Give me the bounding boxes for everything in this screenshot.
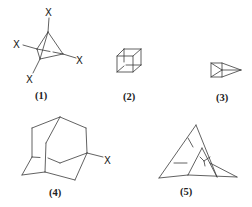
structure-4-adamantane: X (4)	[22, 117, 111, 199]
structure-label-5: (5)	[180, 186, 193, 198]
substituent-x-bottom: X	[26, 74, 33, 85]
structure-2-cubane: (2)	[117, 49, 141, 103]
structures-figure: X X X X (1) (2) (3)	[0, 0, 252, 207]
substituent-x-right: X	[76, 55, 83, 66]
structure-label-1: (1)	[35, 90, 48, 102]
diagram-canvas: X X X X (1) (2) (3)	[0, 0, 252, 207]
substituent-x-left: X	[13, 39, 20, 50]
structure-label-3: (3)	[216, 92, 229, 104]
structure-5-cage: (5)	[159, 125, 237, 198]
substituent-x-top: X	[45, 7, 52, 18]
structure-3-prismane: (3)	[211, 63, 241, 104]
substituent-x-adamantyl: X	[104, 155, 111, 166]
structure-label-2: (2)	[123, 91, 136, 103]
structure-label-4: (4)	[49, 187, 62, 199]
structure-1-tetrahedrane: X X X X (1)	[13, 7, 83, 102]
